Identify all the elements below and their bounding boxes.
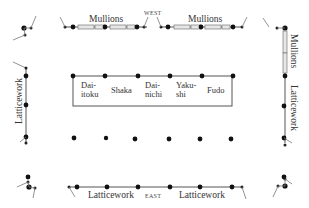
altar-figure-dainichi: Dai- nichi xyxy=(145,80,163,99)
top-left-wall-label: Mullions xyxy=(89,14,124,24)
mullion-panel xyxy=(174,25,190,29)
mullion-panel xyxy=(283,53,287,73)
altar-figure-shaka: Shaka xyxy=(111,85,132,95)
mullion-panel xyxy=(78,25,94,29)
svg-text:itoku: itoku xyxy=(81,89,99,99)
interior-columns xyxy=(72,136,234,142)
mullion-panel xyxy=(283,31,287,53)
svg-text:nichi: nichi xyxy=(145,89,163,99)
top-right-wall-label: Mullions xyxy=(188,14,223,24)
orientation-top-label: WEST xyxy=(144,10,162,16)
right-wall: Mullions Latticework xyxy=(263,18,299,179)
bottom-wall: Latticework EAST Latticework xyxy=(17,178,292,201)
mullion-panel xyxy=(222,25,230,29)
altar-figure-fudo: Fudo xyxy=(207,85,224,95)
left-wall-label: Latticework xyxy=(14,78,24,124)
orientation-bottom-label: EAST xyxy=(145,193,161,199)
mullion-panel xyxy=(205,25,221,29)
right-upper-wall-label: Mullions xyxy=(289,34,299,69)
altar: Dai- itoku Shaka Dai- nichi Yaku- shi Fu… xyxy=(71,74,236,106)
mullion-panel xyxy=(110,25,126,29)
bottom-right-wall-label: Latticework xyxy=(179,190,225,200)
svg-text:Fudo: Fudo xyxy=(207,85,224,95)
altar-figure-yakushi: Yaku- shi xyxy=(176,80,197,99)
bottom-left-wall-label: Latticework xyxy=(88,190,134,200)
mullion-panel xyxy=(127,25,135,29)
top-wall: Mullions WEST Mullions xyxy=(60,10,247,29)
right-lower-wall-label: Latticework xyxy=(289,85,299,131)
altar-figure-daiitoku: Dai- itoku xyxy=(81,80,99,99)
svg-text:Shaka: Shaka xyxy=(111,85,132,95)
temple-floor-plan: Mullions WEST Mullions La xyxy=(0,0,309,208)
svg-text:shi: shi xyxy=(176,89,187,99)
left-wall: Latticework xyxy=(13,16,36,179)
